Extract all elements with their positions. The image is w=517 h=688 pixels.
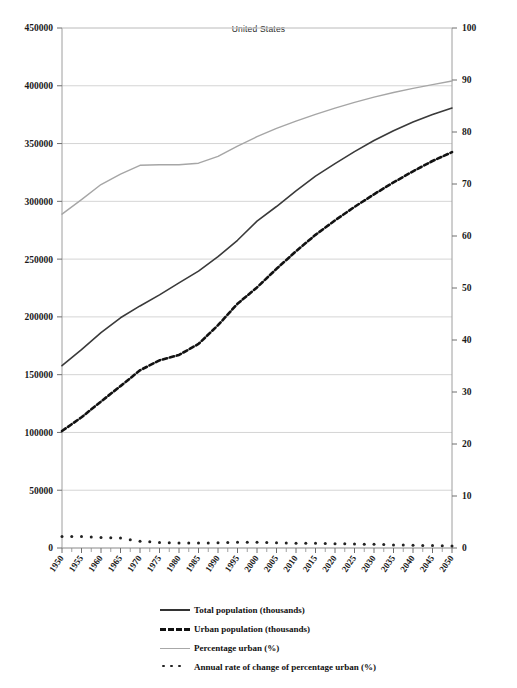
left-axis-tick-label: 250000 bbox=[25, 255, 54, 265]
right-axis-tick-label: 50 bbox=[462, 283, 472, 293]
x-axis-tick-label: 1995 bbox=[223, 553, 242, 574]
right-axis-tick-labels: 0102030405060708090100 bbox=[462, 23, 477, 553]
left-axis-tick-label: 450000 bbox=[25, 23, 54, 33]
x-axis-tick-labels: 1950195519601965197019751980198519901995… bbox=[47, 553, 456, 574]
right-axis-tick-label: 60 bbox=[462, 231, 472, 241]
x-axis-tick-label: 1985 bbox=[184, 553, 203, 574]
left-axis-tick-labels: 0500001000001500002000002500003000003500… bbox=[25, 23, 54, 553]
x-axis-tick-label: 2020 bbox=[320, 553, 339, 574]
right-axis-tick-label: 70 bbox=[462, 179, 472, 189]
legend-label-percentage-urban: Percentage urban (%) bbox=[194, 643, 279, 653]
legend-item-urban-population: Urban population (thousands) bbox=[160, 619, 510, 638]
series-line-1 bbox=[62, 152, 452, 431]
left-axis-tick-label: 50000 bbox=[29, 486, 53, 496]
left-axis-tick-label: 300000 bbox=[25, 197, 54, 207]
legend-key-dotted bbox=[160, 661, 190, 673]
left-axis-tick-label: 400000 bbox=[25, 81, 54, 91]
x-axis-tick-label: 2000 bbox=[242, 553, 261, 574]
series-line-2 bbox=[62, 81, 452, 214]
left-axis-tick-label: 200000 bbox=[25, 312, 54, 322]
x-axis-tick-label: 1975 bbox=[145, 553, 164, 574]
x-axis-tick-label: 1950 bbox=[47, 553, 66, 574]
right-axis-tick-label: 20 bbox=[462, 439, 472, 449]
right-axis-tick-label: 80 bbox=[462, 127, 472, 137]
x-axis-tick-label: 2030 bbox=[359, 553, 378, 574]
right-axis-tick-label: 30 bbox=[462, 387, 472, 397]
x-axis-tick-label: 2025 bbox=[340, 553, 359, 574]
x-axis-tick-label: 2040 bbox=[398, 553, 417, 574]
x-axis-tick-label: 2015 bbox=[301, 553, 320, 574]
chart-legend: Total population (thousands) Urban popul… bbox=[160, 600, 510, 676]
x-axis-tick-label: 2045 bbox=[418, 553, 437, 574]
x-axis-tick-label: 1960 bbox=[86, 553, 105, 574]
right-axis-tick-label: 90 bbox=[462, 75, 472, 85]
left-axis-ticks bbox=[57, 28, 62, 548]
x-axis-tick-label: 1955 bbox=[67, 553, 86, 574]
chart-plot-area: 0500001000001500002000002500003000003500… bbox=[0, 0, 517, 688]
x-axis-tick-label: 1990 bbox=[203, 553, 222, 574]
right-axis-tick-label: 40 bbox=[462, 335, 472, 345]
legend-label-urban-population: Urban population (thousands) bbox=[194, 624, 310, 634]
x-axis-tick-label: 1980 bbox=[164, 553, 183, 574]
x-axis-tick-label: 2010 bbox=[281, 553, 300, 574]
left-axis-tick-label: 350000 bbox=[25, 139, 54, 149]
legend-item-percentage-urban: Percentage urban (%) bbox=[160, 638, 510, 657]
x-axis-tick-label: 1965 bbox=[106, 553, 125, 574]
legend-key-solid-light bbox=[160, 642, 190, 654]
series-line-0 bbox=[62, 108, 452, 366]
series-lines bbox=[61, 81, 454, 547]
right-axis-tick-label: 0 bbox=[462, 543, 467, 553]
legend-key-dashed-dark bbox=[160, 623, 190, 635]
legend-label-total-population: Total population (thousands) bbox=[194, 605, 305, 615]
right-axis-tick-label: 100 bbox=[462, 23, 477, 33]
left-axis-tick-label: 100000 bbox=[25, 428, 54, 438]
legend-item-total-population: Total population (thousands) bbox=[160, 600, 510, 619]
x-axis-ticks bbox=[62, 548, 452, 553]
left-axis-tick-label: 150000 bbox=[25, 370, 54, 380]
right-axis-ticks bbox=[452, 28, 457, 548]
legend-item-annual-rate: Annual rate of change of percentage urba… bbox=[160, 657, 510, 676]
x-axis-tick-label: 2005 bbox=[262, 553, 281, 574]
x-axis-tick-label: 2050 bbox=[437, 553, 456, 574]
legend-label-annual-rate: Annual rate of change of percentage urba… bbox=[194, 662, 376, 672]
left-axis-tick-label: 0 bbox=[48, 543, 53, 553]
series-annual-rate-dots bbox=[61, 535, 454, 547]
right-axis-tick-label: 10 bbox=[462, 491, 472, 501]
chart-container: United States 05000010000015000020000025… bbox=[0, 0, 517, 688]
x-axis-tick-label: 1970 bbox=[125, 553, 144, 574]
x-axis-tick-label: 2035 bbox=[379, 553, 398, 574]
legend-key-solid-dark bbox=[160, 604, 190, 616]
